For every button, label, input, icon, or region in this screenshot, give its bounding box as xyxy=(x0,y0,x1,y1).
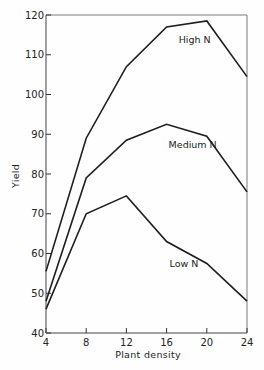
line-chart: 405060708090100110120 4812162024 High NM… xyxy=(0,0,264,370)
y-tick-label: 50 xyxy=(31,288,44,299)
x-tick-label: 16 xyxy=(160,337,173,348)
series-low-n xyxy=(46,196,247,309)
y-tick-label: 60 xyxy=(31,248,44,259)
y-tick-label: 90 xyxy=(31,129,44,140)
x-tick-label: 12 xyxy=(120,337,133,348)
series-labels: High NMedium NLow N xyxy=(169,34,217,270)
label-low-n: Low N xyxy=(170,258,199,269)
y-tick-label: 70 xyxy=(31,208,44,219)
series-group xyxy=(46,21,247,309)
label-medium-n: Medium N xyxy=(169,139,217,150)
y-axis: 405060708090100110120 xyxy=(25,10,51,339)
series-medium-n xyxy=(46,124,247,301)
x-axis-title: Plant density xyxy=(115,349,181,360)
y-axis-title: Yield xyxy=(10,164,21,189)
x-tick-label: 20 xyxy=(200,337,213,348)
y-tick-label: 110 xyxy=(25,49,44,60)
y-tick-label: 100 xyxy=(25,89,44,100)
label-high-n: High N xyxy=(179,34,211,45)
x-axis: 4812162024 xyxy=(43,328,254,348)
x-tick-label: 8 xyxy=(83,337,89,348)
x-tick-label: 4 xyxy=(43,337,49,348)
y-tick-label: 80 xyxy=(31,169,44,180)
series-high-n xyxy=(46,21,247,271)
x-tick-label: 24 xyxy=(241,337,254,348)
y-tick-label: 120 xyxy=(25,10,44,21)
chart-canvas: 405060708090100110120 4812162024 High NM… xyxy=(0,0,264,370)
